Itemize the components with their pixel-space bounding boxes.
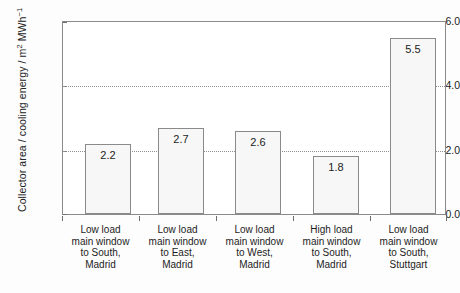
bar-low-load-east-madrid: 2.7 (158, 128, 204, 214)
x-category-line: Madrid (216, 259, 293, 271)
x-category-line: Madrid (139, 259, 216, 271)
x-category-label-4: High load main window to South, Madrid (293, 224, 370, 270)
bar-value-label: 2.6 (236, 136, 280, 148)
x-category-line: main window (216, 236, 293, 248)
bar-low-load-west-madrid: 2.6 (235, 131, 281, 214)
bar-low-load-south-stuttgart: 5.5 (390, 38, 436, 214)
x-tick-4 (370, 216, 371, 221)
bar-high-load-south-madrid: 1.8 (313, 156, 359, 214)
y-axis-title: Collector area / cooling energy / m2 MWh… (14, 16, 30, 212)
y-tick-mark-6 (63, 22, 67, 23)
x-tick-1 (139, 216, 140, 221)
plot-area: 2.2 2.7 2.6 1.8 5.5 (62, 21, 446, 215)
x-category-line: Madrid (293, 259, 370, 271)
y-axis-title-text: Collector area / cooling energy / m (16, 49, 28, 212)
x-category-line: to West, (216, 247, 293, 259)
x-category-line: main window (370, 236, 447, 248)
x-category-label-3: Low load main window to West, Madrid (216, 224, 293, 270)
x-category-line: Stuttgart (370, 259, 447, 271)
x-category-line: main window (293, 236, 370, 248)
x-category-label-2: Low load main window to East, Madrid (139, 224, 216, 270)
x-tick-0 (62, 216, 63, 221)
bar-low-load-south-madrid: 2.2 (85, 144, 131, 214)
bar-value-label: 2.2 (86, 149, 130, 161)
bar-value-label: 1.8 (314, 161, 358, 173)
x-category-line: main window (62, 236, 139, 248)
bar-value-label: 2.7 (159, 133, 203, 145)
x-category-line: to South, (293, 247, 370, 259)
x-category-line: main window (139, 236, 216, 248)
x-tick-5 (446, 216, 447, 221)
x-category-line: Low load (62, 224, 139, 236)
x-category-line: Madrid (62, 259, 139, 271)
x-tick-3 (293, 216, 294, 221)
x-category-line: to East, (139, 247, 216, 259)
x-category-line: Low load (370, 224, 447, 236)
x-category-line: Low load (139, 224, 216, 236)
bar-value-label: 5.5 (391, 43, 435, 55)
x-category-line: to South, (62, 247, 139, 259)
y-axis-title-sup-area: 2 (15, 44, 24, 48)
gridline-4 (63, 86, 445, 87)
x-category-line: High load (293, 224, 370, 236)
y-axis-title-sup-exponent: −1 (15, 8, 24, 17)
y-axis-title-mid: MWh (16, 16, 28, 44)
x-category-line: to South, (370, 247, 447, 259)
x-category-label-1: Low load main window to South, Madrid (62, 224, 139, 270)
y-tick-mark-0 (63, 214, 67, 215)
x-category-label-5: Low load main window to South, Stuttgart (370, 224, 447, 270)
x-tick-2 (216, 216, 217, 221)
x-category-line: Low load (216, 224, 293, 236)
bar-chart-figure: Collector area / cooling energy / m2 MWh… (0, 0, 460, 293)
